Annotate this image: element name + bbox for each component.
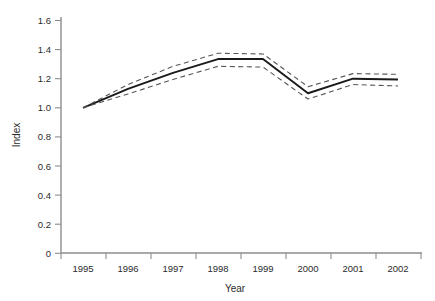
x-tick-label-1998: 1998 — [207, 263, 228, 274]
y-tick-label-0-4: 0.4 — [38, 190, 51, 201]
y-tick-label-0: 0 — [46, 248, 51, 259]
data-series-group — [83, 53, 398, 108]
y-tick-label-1-4: 1.4 — [38, 44, 51, 55]
y-tick-label-1-6: 1.6 — [38, 15, 51, 26]
series-line-lower-ci — [83, 66, 398, 107]
y-axis-ticks — [55, 21, 61, 254]
x-tick-label-2001: 2001 — [342, 263, 363, 274]
y-tick-label-0-6: 0.6 — [38, 161, 51, 172]
y-tick-label-0-8: 0.8 — [38, 131, 51, 142]
y-axis-title: Index — [11, 123, 22, 147]
x-axis-title: Year — [225, 283, 246, 294]
x-tick-label-1997: 1997 — [162, 263, 183, 274]
x-tick-label-1999: 1999 — [252, 263, 273, 274]
chart-canvas: 1.6 1.4 1.2 1.0 0.8 0.6 0.4 0.2 0 1995 1… — [0, 0, 435, 301]
x-axis-ticks — [61, 253, 421, 259]
x-tick-label-2002: 2002 — [387, 263, 408, 274]
y-tick-label-1-0: 1.0 — [38, 102, 51, 113]
y-tick-label-0-2: 0.2 — [38, 219, 51, 230]
x-tick-label-1996: 1996 — [117, 263, 138, 274]
line-chart-figure: 1.6 1.4 1.2 1.0 0.8 0.6 0.4 0.2 0 1995 1… — [0, 0, 435, 301]
x-tick-label-2000: 2000 — [297, 263, 318, 274]
series-line-upper-ci — [83, 53, 398, 108]
x-tick-label-1995: 1995 — [72, 263, 93, 274]
y-tick-label-1-2: 1.2 — [38, 73, 51, 84]
